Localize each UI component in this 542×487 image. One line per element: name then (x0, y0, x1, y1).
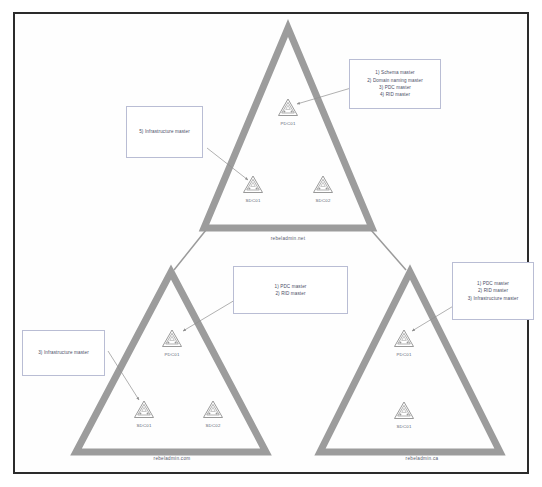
server-label-net-sdc02: SDC02 (315, 198, 330, 203)
server-label-com-sdc01: SDC01 (136, 423, 151, 428)
callout-line: 2) RID master (478, 287, 508, 294)
callout-box-ca-pdc-roles: 1) PDC master 2) RID master 3) Infrastru… (452, 262, 534, 320)
trust-connector-net-to-ca (371, 230, 406, 270)
diagram-vector-layer (0, 0, 542, 487)
domain-label-rebeladmin-ca: rebeladmin.ca (406, 456, 439, 461)
callout-line: 3) Infrastructure master (468, 295, 519, 302)
callout-line: 4) RID master (380, 91, 410, 98)
server-label-ca-pdc01: PDC01 (396, 352, 411, 357)
callout-box-com-pdc-roles: 1) PDC master 2) RID master (233, 266, 348, 314)
server-label-net-pdc01: PDC01 (280, 121, 295, 126)
callout-box-root-sdc01-roles: 5) Infrastructure master (126, 106, 203, 158)
callout-line: 3) PDC master (379, 84, 411, 91)
server-label-net-sdc01: SDC01 (245, 198, 260, 203)
dc-icon-com-sdc02[interactable] (204, 401, 223, 418)
server-label-ca-sdc01: SDC01 (396, 424, 411, 429)
callout-line: 2) Domain naming master (367, 77, 423, 84)
dc-icon-com-pdc01[interactable] (163, 330, 182, 347)
callout-box-root-pdc-roles: 1) Schema master 2) Domain naming master… (349, 59, 441, 109)
domain-triangle-rebeladmin-net (204, 28, 372, 228)
domain-label-rebeladmin-com: rebeladmin.com (154, 456, 191, 461)
domain-label-rebeladmin-net: rebeladmin.net (271, 236, 306, 241)
dc-icon-ca-sdc01[interactable] (395, 402, 414, 419)
dc-icon-com-sdc01[interactable] (135, 401, 154, 418)
callout-line: 2) RID master (275, 290, 305, 297)
dc-icon-net-sdc02[interactable] (314, 176, 333, 193)
callout-line: 1) PDC master (275, 283, 307, 290)
dc-icon-net-pdc01[interactable] (279, 99, 298, 116)
callout-line: 3) Infrastructure master (38, 349, 89, 356)
callout-box-com-sdc01-roles: 3) Infrastructure master (22, 330, 105, 376)
trust-connector-net-to-com (174, 230, 206, 270)
server-label-com-pdc01: PDC01 (164, 352, 179, 357)
callout-line: 1) Schema master (375, 69, 414, 76)
server-label-com-sdc02: SDC02 (205, 423, 220, 428)
diagram-canvas: PDC01 SDC01 SDC02 PDC01 SDC01 SDC02 PDC0… (0, 0, 542, 487)
dc-icon-ca-pdc01[interactable] (395, 330, 414, 347)
callout-line: 1) PDC master (477, 280, 509, 287)
callout-line: 5) Infrastructure master (139, 128, 190, 135)
leader-line-root-pdc (297, 88, 351, 104)
